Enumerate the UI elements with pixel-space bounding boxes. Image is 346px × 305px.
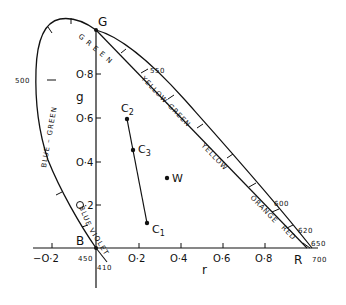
rg-chromaticity-diagram: G B R −O·2 O·2 O·4 O·6 O·8 ·2 O·4 O·6 O·… (0, 0, 346, 305)
r-axis-title: r (202, 263, 207, 277)
wavelength-600: 600 (274, 200, 289, 208)
x-tick-08: O·8 (255, 253, 272, 264)
g-axis-ticks (96, 74, 101, 205)
wavelength-500: 500 (15, 77, 30, 85)
y-tick-08: O·8 (76, 69, 93, 80)
vertex-g-label: G (98, 15, 107, 29)
c1-c2-line (127, 119, 147, 223)
x-tick-06: O·6 (213, 253, 230, 264)
wavelength-410: 410 (97, 264, 112, 272)
band-orange: ORANGE (249, 194, 280, 225)
wavelength-650: 650 (311, 240, 326, 248)
vertex-r-label: R (294, 253, 302, 267)
band-violet: VIOLET (87, 227, 110, 258)
x-tick-04: O·4 (170, 253, 187, 264)
vertex-b-label: B (76, 234, 84, 248)
x-tick-02: O·2 (128, 253, 145, 264)
point-w-label: W (172, 172, 183, 185)
wavelength-450: 450 (78, 255, 93, 263)
point-w (165, 176, 169, 180)
band-yellow-green: YELLOW-GREEN (139, 74, 192, 129)
y-tick-06: O·6 (76, 113, 93, 124)
wavelength-550: 550 (150, 67, 165, 75)
x-tick-neg02: −O·2 (33, 253, 59, 264)
wavelength-700: 700 (312, 256, 327, 264)
point-c2-label: C2 (121, 102, 134, 117)
wavelength-620: 620 (298, 227, 313, 235)
point-c1-label: C1 (152, 223, 165, 238)
point-c3 (131, 148, 135, 152)
point-c3-label: C3 (138, 143, 151, 158)
y-tick-04: O·4 (76, 157, 93, 168)
point-c2 (125, 117, 129, 121)
point-c1 (145, 221, 149, 225)
g-axis-title: g (76, 90, 84, 104)
band-blue-green: BLUE – GREEN (40, 106, 59, 169)
